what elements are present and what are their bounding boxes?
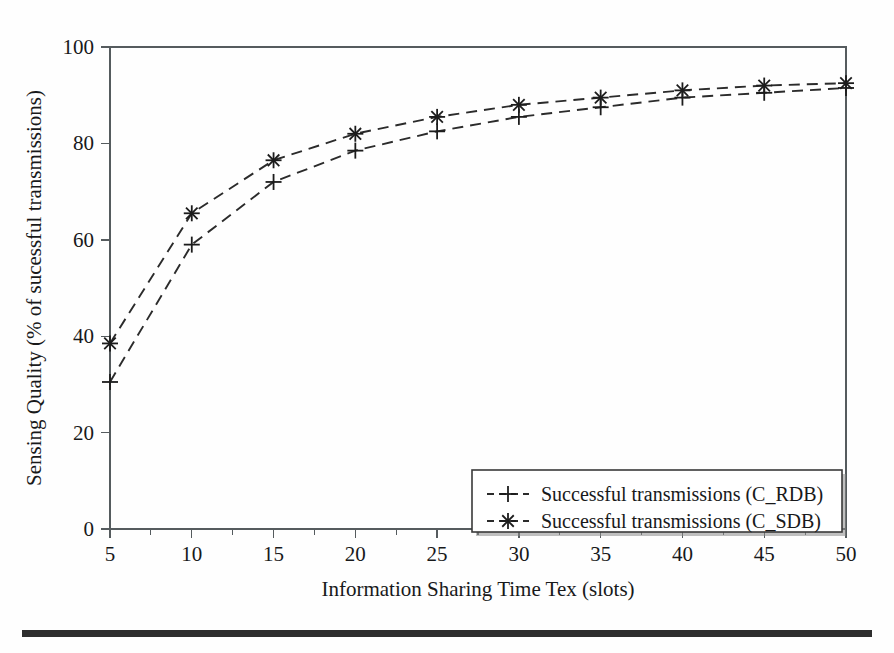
- x-ticklabel: 40: [672, 542, 693, 566]
- plus-marker: [266, 174, 282, 190]
- y-axis-ticks: [101, 47, 110, 529]
- asterisk-marker: [674, 82, 690, 98]
- legend-label: Successful transmissions (C_RDB): [541, 483, 823, 506]
- x-ticklabel: 20: [345, 542, 366, 566]
- asterisk-marker: [500, 513, 516, 529]
- y-axis-ticklabels: 020406080100: [63, 35, 95, 541]
- series-line: [110, 88, 846, 382]
- y-ticklabel: 0: [84, 517, 95, 541]
- series-c-sdb: [102, 75, 854, 351]
- x-ticklabel: 35: [590, 542, 611, 566]
- series-line: [110, 83, 846, 343]
- y-ticklabel: 100: [63, 35, 95, 59]
- plus-marker: [184, 237, 200, 253]
- x-ticklabel: 5: [105, 542, 116, 566]
- y-ticklabel: 40: [73, 324, 94, 348]
- asterisk-marker: [266, 152, 282, 168]
- y-ticklabel: 60: [73, 228, 94, 252]
- x-ticklabel: 45: [754, 542, 775, 566]
- page-canvas: 020406080100 5101520253035404550 Success…: [0, 0, 894, 653]
- chart-legend[interactable]: Successful transmissions (C_RDB)Successf…: [472, 470, 846, 536]
- series-c-rdb: [102, 80, 854, 390]
- y-axis-title: Sensing Quality (% of sucessful transmis…: [22, 90, 46, 486]
- line-chart-svg: 020406080100 5101520253035404550 Success…: [0, 0, 894, 612]
- page-bottom-rule: [22, 630, 872, 637]
- x-ticklabel: 50: [836, 542, 857, 566]
- x-ticklabel: 10: [181, 542, 202, 566]
- y-ticklabel: 20: [73, 421, 94, 445]
- asterisk-marker: [593, 90, 609, 106]
- x-axis-title: Information Sharing Time Tex (slots): [321, 577, 634, 601]
- data-series-layer: [102, 75, 854, 390]
- x-ticklabel: 30: [508, 542, 529, 566]
- asterisk-marker: [102, 335, 118, 351]
- chart-figure: 020406080100 5101520253035404550 Success…: [0, 0, 894, 612]
- x-axis-ticklabels: 5101520253035404550: [105, 542, 857, 566]
- asterisk-marker: [511, 97, 527, 113]
- plus-marker: [102, 374, 118, 390]
- asterisk-marker: [429, 109, 445, 125]
- y-ticklabel: 80: [73, 131, 94, 155]
- plus-marker: [429, 123, 445, 139]
- x-ticklabel: 15: [263, 542, 284, 566]
- legend-label: Successful transmissions (C_SDB): [541, 510, 821, 533]
- asterisk-marker: [347, 126, 363, 142]
- plus-marker: [347, 143, 363, 159]
- asterisk-marker: [756, 78, 772, 94]
- asterisk-marker: [838, 75, 854, 91]
- asterisk-marker: [184, 205, 200, 221]
- plot-frame: [110, 47, 846, 529]
- x-ticklabel: 25: [427, 542, 448, 566]
- plot-frame-border: [110, 47, 846, 529]
